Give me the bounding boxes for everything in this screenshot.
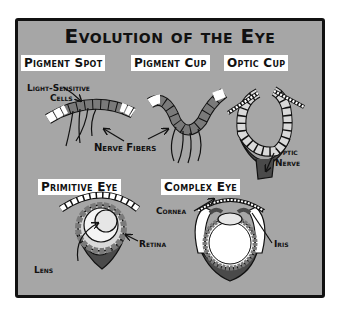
optic-cup-drawing bbox=[228, 91, 304, 179]
eye-illustrations bbox=[18, 21, 322, 295]
pigment-cup-drawing bbox=[148, 93, 224, 163]
pigment-spot-drawing bbox=[48, 87, 133, 146]
complex-eye-drawing bbox=[194, 199, 272, 281]
diagram-frame: Evolution of the Eye Pigment Spot Pigmen… bbox=[15, 18, 325, 298]
primitive-eye-drawing bbox=[61, 195, 138, 269]
